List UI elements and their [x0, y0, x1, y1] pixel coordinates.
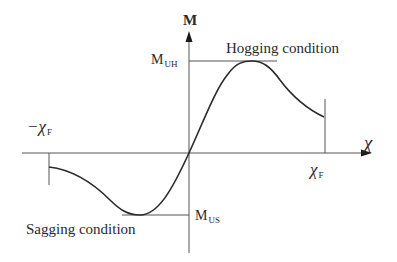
chi-f-pos-sub: F — [318, 170, 323, 180]
hogging-condition-label: Hogging condition — [226, 41, 339, 56]
chi-f-pos-main: χ — [310, 160, 317, 179]
m-us-sub: US — [208, 215, 220, 225]
chi-f-neg-label: −χF — [27, 118, 52, 137]
m-us-label: MUS — [195, 209, 220, 225]
x-axis-label: χ — [364, 133, 372, 152]
m-uh-sub: UH — [164, 59, 177, 69]
y-axis-arrow-icon — [186, 31, 193, 42]
m-uh-label: MUH — [151, 53, 177, 69]
m-uh-main: M — [151, 52, 163, 67]
chi-f-pos-label: χF — [310, 161, 324, 180]
y-axis-label: M — [183, 13, 197, 28]
chi-f-neg-sub: F — [47, 127, 52, 137]
m-us-main: M — [195, 208, 207, 223]
chi-f-neg-main: −χ — [27, 117, 46, 136]
moment-curvature-curve — [49, 61, 324, 215]
sagging-condition-label: Sagging condition — [26, 222, 136, 237]
